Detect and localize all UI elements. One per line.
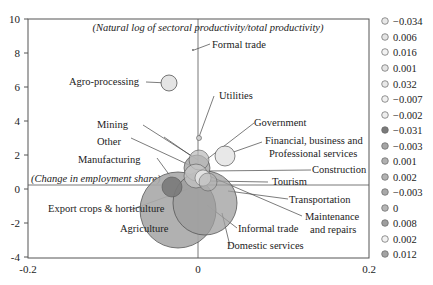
y-tick-2: 2 bbox=[15, 149, 21, 161]
svg-text:0.012: 0.012 bbox=[393, 249, 417, 260]
svg-text:0.032: 0.032 bbox=[393, 79, 417, 90]
legend-item: 0.006 bbox=[382, 32, 417, 43]
bubble-financial[interactable] bbox=[215, 146, 235, 166]
svg-text:−0.003: −0.003 bbox=[393, 187, 423, 198]
svg-text:−0.002: −0.002 bbox=[393, 110, 423, 121]
svg-text:−0.003: −0.003 bbox=[393, 141, 423, 152]
y-axis-ticks: 10 8 6 4 2 0 -2 -4 bbox=[9, 13, 28, 263]
y-axis-inner-label: (Natural log of sectoral productivity/to… bbox=[92, 22, 324, 34]
legend-item: 0.002 bbox=[382, 234, 417, 245]
label-maintenance-1: Maintenance bbox=[305, 211, 360, 222]
bubble-formal-trade[interactable] bbox=[192, 49, 194, 51]
label-financial-1: Financial, business and bbox=[265, 135, 363, 146]
svg-text:0.002: 0.002 bbox=[393, 172, 417, 183]
label-other: Other bbox=[97, 136, 121, 147]
x-tick-0: 0 bbox=[195, 263, 201, 275]
label-transportation: Transportation bbox=[289, 194, 351, 205]
legend-item: 0.002 bbox=[382, 172, 417, 183]
y-tick-minus-4: -4 bbox=[11, 251, 21, 263]
legend-item: −0.034 bbox=[382, 16, 424, 27]
x-tick-0.2: 0.2 bbox=[362, 263, 376, 275]
bubble-utilities[interactable] bbox=[197, 136, 202, 141]
svg-text:−0.007: −0.007 bbox=[393, 94, 423, 105]
x-axis-inner-label: (Change in employment share) bbox=[31, 173, 161, 185]
legend-item: 0.001 bbox=[382, 63, 417, 74]
legend-item: 0 bbox=[382, 203, 399, 214]
legend-item: −0.003 bbox=[382, 187, 423, 198]
legend-item: 0.008 bbox=[382, 218, 417, 229]
svg-text:0.008: 0.008 bbox=[393, 218, 417, 229]
y-tick-10: 10 bbox=[9, 13, 21, 25]
legend-item: −0.007 bbox=[382, 94, 423, 105]
label-construction: Construction bbox=[312, 164, 367, 175]
label-informal-trade: Informal trade bbox=[238, 223, 299, 234]
legend-item: −0.002 bbox=[382, 110, 423, 121]
bubble-manufacturing[interactable] bbox=[162, 177, 182, 197]
legend-item: −0.003 bbox=[382, 141, 423, 152]
svg-text:−0.031: −0.031 bbox=[393, 125, 423, 136]
label-mining: Mining bbox=[97, 119, 129, 130]
x-axis-ticks: -0.2 0 0.2 bbox=[19, 263, 376, 275]
svg-text:−0.034: −0.034 bbox=[393, 16, 423, 27]
y-tick-minus-2: -2 bbox=[11, 217, 20, 229]
label-tourism: Tourism bbox=[272, 176, 307, 187]
label-domestic-services: Domestic services bbox=[227, 240, 304, 251]
legend: −0.034 0.006 0.016 0.001 0.032 −0.007 −0… bbox=[382, 16, 424, 260]
svg-text:0.001: 0.001 bbox=[393, 156, 417, 167]
bubble-tourism[interactable] bbox=[199, 173, 217, 191]
svg-text:0.006: 0.006 bbox=[393, 32, 417, 43]
svg-text:0: 0 bbox=[393, 203, 398, 214]
label-agro-processing: Agro-processing bbox=[69, 76, 140, 87]
svg-text:0.016: 0.016 bbox=[393, 47, 417, 58]
label-financial-2: Professional services bbox=[269, 148, 357, 159]
label-agriculture: Agriculture bbox=[120, 223, 169, 234]
bubble-chart: 10 8 6 4 2 0 -2 -4 -0.2 0 0.2 (Natural l… bbox=[0, 0, 433, 285]
label-formal-trade: Formal trade bbox=[212, 39, 266, 50]
legend-item: −0.031 bbox=[382, 125, 423, 136]
label-utilities: Utilities bbox=[219, 90, 253, 101]
y-tick-8: 8 bbox=[15, 47, 21, 59]
legend-item: 0.016 bbox=[382, 47, 417, 58]
legend-item: 0.001 bbox=[382, 156, 417, 167]
bubbles bbox=[140, 49, 237, 248]
y-tick-4: 4 bbox=[15, 115, 21, 127]
label-export-crops: Export crops & horticulture bbox=[48, 203, 165, 214]
svg-text:0.001: 0.001 bbox=[393, 63, 417, 74]
label-maintenance-2: and repairs bbox=[310, 224, 356, 235]
svg-text:0.002: 0.002 bbox=[393, 234, 417, 245]
label-manufacturing: Manufacturing bbox=[78, 154, 141, 165]
legend-item: 0.032 bbox=[382, 79, 417, 90]
legend-item: 0.012 bbox=[382, 249, 417, 260]
y-tick-0: 0 bbox=[15, 183, 21, 195]
label-government: Government bbox=[254, 117, 307, 128]
y-tick-6: 6 bbox=[15, 81, 21, 93]
bubble-agro-processing[interactable] bbox=[161, 75, 177, 91]
x-tick-minus-0.2: -0.2 bbox=[19, 263, 36, 275]
